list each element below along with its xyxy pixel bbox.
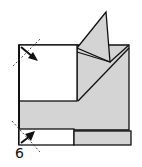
origami-diagram (0, 0, 142, 167)
bottom-gray-strip (74, 131, 131, 145)
step-number: 6 (15, 146, 24, 160)
